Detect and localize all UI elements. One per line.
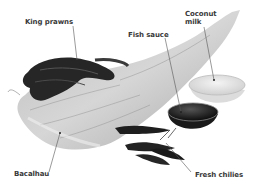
fresh-chilies [115, 126, 185, 165]
label-bacalhau: Bacalhau [14, 170, 49, 178]
label-coconut-milk: Coconut milk [185, 10, 217, 26]
photo-illustration [0, 0, 253, 185]
ingredients-photo: King prawns Fish sauce Coconut milk Baca… [0, 0, 253, 185]
label-coconut-milk-line1: Coconut [185, 10, 217, 18]
label-fish-sauce: Fish sauce [128, 31, 169, 39]
fish-sauce-bowl [168, 103, 218, 129]
coconut-milk-bowl [189, 75, 245, 103]
label-coconut-milk-line2: milk [185, 18, 217, 26]
label-fresh-chilies: Fresh chilies [195, 171, 243, 179]
label-king-prawns: King prawns [25, 18, 73, 26]
